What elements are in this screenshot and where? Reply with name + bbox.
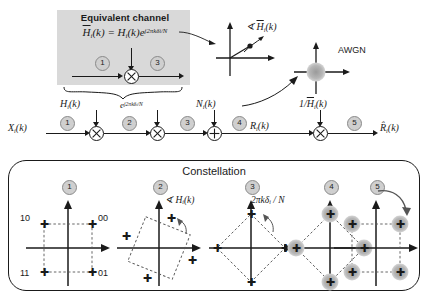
bit-label-bottom-left: 11 xyxy=(20,268,29,278)
eq-tap-line xyxy=(131,48,132,67)
constellation-point: ✚ xyxy=(292,243,301,254)
constellation-point: ✚ xyxy=(247,209,256,220)
constellation-point: ✚ xyxy=(396,267,405,278)
constellation-point: ✚ xyxy=(143,273,152,284)
bit-label-bottom-right: 01 xyxy=(98,268,108,278)
eq-output-arrow-icon xyxy=(179,73,184,79)
chain-multiplier-3-icon xyxy=(313,126,328,141)
chain-line-seg-5 xyxy=(328,133,375,134)
constellation-stage-1: 1 ✚ ✚ ✚ ✚ 10 00 11 01 xyxy=(22,196,118,288)
chain-line-seg-1 xyxy=(46,133,87,134)
constellation-stage-badge-1: 1 xyxy=(62,180,77,195)
chain-line-seg-3 xyxy=(165,133,205,134)
constellation-point: ✚ xyxy=(167,213,176,224)
bit-label-top-left: 10 xyxy=(20,213,30,223)
eq-multiplier-icon xyxy=(124,69,139,84)
tap-label-noise: Ni(k) xyxy=(196,98,216,110)
chain-input-label: Xi(k) xyxy=(8,122,27,134)
chain-adder-icon xyxy=(207,126,222,141)
tap-label-h: Hi(k) xyxy=(60,98,80,110)
chain-stage-badge-1: 1 xyxy=(60,116,75,131)
chain-stage-badge-3: 3 xyxy=(180,116,195,131)
constellation-stage-badge-2: 2 xyxy=(153,180,168,195)
chain-stage-badge-4: 4 xyxy=(232,116,247,131)
tap-label-equalizer: 1/Hi(k) xyxy=(299,98,327,110)
bit-label-top-right: 00 xyxy=(98,213,108,223)
constellation-point: ✚ xyxy=(88,219,97,230)
eq-input-line xyxy=(72,76,120,77)
constellation-point: ✚ xyxy=(348,267,357,278)
constellation-point: ✚ xyxy=(40,219,49,230)
constellation-stage-badge-3: 3 xyxy=(245,180,260,195)
formula-pointer-arrow-icon xyxy=(178,30,218,46)
phase-plot-label: ∢ Hi(k) xyxy=(246,21,277,33)
constellation-stage-badge-4: 4 xyxy=(324,180,339,195)
constellation-stage-2: 2 ✚ ✚ ✚ ✚ ∢ Hi(k) xyxy=(113,196,209,288)
constellation-point: ✚ xyxy=(40,267,49,278)
equivalent-channel-title: Equivalent channel xyxy=(70,12,180,23)
constellation-point: ✚ xyxy=(213,243,222,254)
chain-stage-badge-2: 2 xyxy=(122,116,137,131)
constellation-annotation-3: 2πkδi / N xyxy=(251,194,285,205)
derotation-arrow-icon xyxy=(376,186,412,222)
constellation-annotation-2: ∢ Hi(k) xyxy=(165,194,194,205)
stage-badge-1-eq: 1 xyxy=(95,56,110,71)
chain-multiplier-1-icon xyxy=(89,126,104,141)
equivalent-channel-brace xyxy=(62,86,184,100)
chain-stage-badge-5: 5 xyxy=(347,116,362,131)
eq-output-line xyxy=(139,76,181,77)
stage-badge-3-eq: 3 xyxy=(150,56,165,71)
awgn-pointer-arrow-icon xyxy=(240,74,304,108)
chain-arrow-5-icon xyxy=(373,130,378,136)
awgn-noise-blob-icon xyxy=(307,63,326,82)
chain-line-seg-2 xyxy=(104,133,148,134)
constellation-point: ✚ xyxy=(188,255,197,266)
constellation-point: ✚ xyxy=(122,231,131,242)
chain-mid-label: Ri(k) xyxy=(250,120,269,132)
constellation-axes-2 xyxy=(113,196,209,288)
eq-input-arrow-icon xyxy=(118,73,123,79)
chain-multiplier-2-icon xyxy=(150,126,165,141)
constellation-point: ✚ xyxy=(348,219,357,230)
constellation-point: ✚ xyxy=(247,277,256,288)
constellation-point: ✚ xyxy=(88,267,97,278)
chain-line-seg-4 xyxy=(222,133,311,134)
tap-label-exponential: ej2πkδi/N xyxy=(120,100,143,110)
equivalent-channel-formula: Hi(k) = Hi(k)ej2πkδi/N xyxy=(60,26,190,39)
awgn-label: AWGN xyxy=(338,45,366,55)
chain-output-label: R̂i(k) xyxy=(380,122,399,134)
constellation-title: Constellation xyxy=(8,165,420,177)
